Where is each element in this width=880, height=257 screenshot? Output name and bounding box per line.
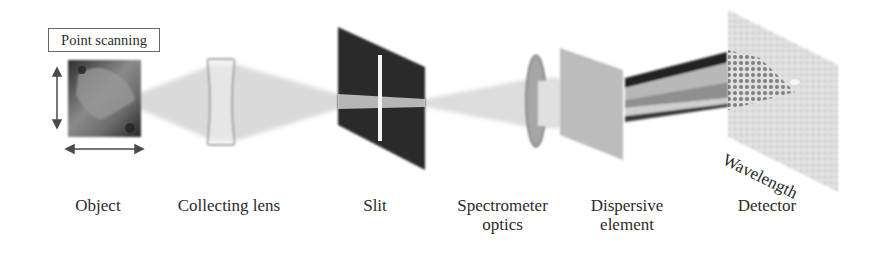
dispersive-element-label-line1: Dispersive — [582, 196, 672, 215]
spectrometer-lens-shape — [526, 55, 560, 147]
slit-label: Slit — [355, 196, 395, 215]
object-sample — [68, 60, 141, 137]
spectrometer-optics-label-line1: Spectrometer — [440, 196, 565, 215]
detector-label: Detector — [727, 196, 807, 215]
slit-panel — [338, 27, 425, 170]
spectrometer-optics-label: Spectrometer optics — [440, 196, 565, 234]
horizontal-scan-arrow-icon — [66, 145, 143, 153]
dispersive-element-label-line2: element — [582, 215, 672, 234]
point-scanning-label: Point scanning — [48, 28, 160, 52]
vertical-scan-arrow-icon — [53, 68, 61, 128]
collecting-lens-label: Collecting lens — [164, 196, 294, 215]
spectrometer-optics-label-line2: optics — [440, 215, 565, 234]
dispersive-element-label: Dispersive element — [582, 196, 672, 234]
object-label: Object — [66, 196, 130, 215]
dispersive-element-panel — [560, 48, 623, 160]
collecting-lens-shape — [207, 59, 234, 145]
